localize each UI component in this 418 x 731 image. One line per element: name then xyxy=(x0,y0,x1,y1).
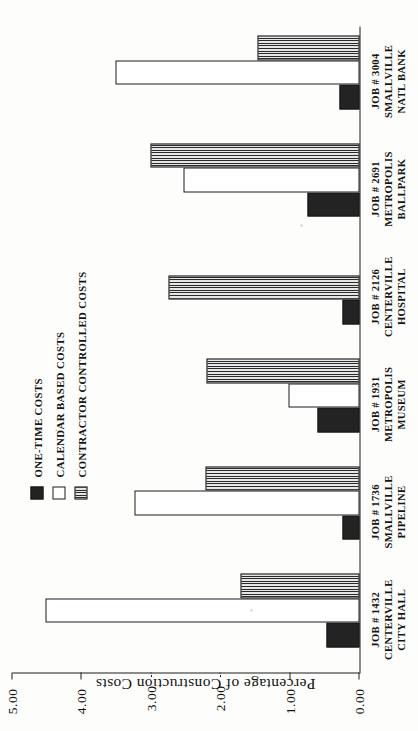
bar-group xyxy=(12,143,359,217)
category-axis-line xyxy=(359,26,360,673)
bar xyxy=(206,358,359,383)
legend-swatch-icon xyxy=(30,486,43,499)
bar xyxy=(183,167,359,192)
bar xyxy=(307,192,359,217)
bar xyxy=(240,573,359,598)
value-axis-tick: 4.00 xyxy=(80,672,81,679)
category-label-line: METROPOLIS xyxy=(381,135,394,243)
bar-chart-figure: Percentage of Construction Costs 0.001.0… xyxy=(0,0,418,731)
value-axis-tick: 5.00 xyxy=(11,672,12,679)
category-label-line: JOB # 2126 xyxy=(368,242,381,350)
category-label-line: PIPELINE xyxy=(394,458,407,566)
bar xyxy=(342,515,359,540)
legend-label: CALENDAR BASED COSTS xyxy=(53,331,65,477)
category-label-line: METROPOLIS xyxy=(381,350,394,458)
category-label-line: JOB # 1432 xyxy=(368,565,381,673)
scan-speckle xyxy=(55,429,57,431)
category-label-line: BALLPARK xyxy=(394,135,407,243)
category-label-line: JOB # 1736 xyxy=(368,458,381,566)
category-label-line: JOB # 1931 xyxy=(368,350,381,458)
scan-speckle xyxy=(250,609,252,611)
category-label-line: JOB # 2691 xyxy=(368,135,381,243)
chart-page: Percentage of Construction Costs 0.001.0… xyxy=(0,0,418,731)
bar xyxy=(205,466,359,491)
bar xyxy=(317,407,359,432)
category-label: JOB # 2126CENTERVILLEHOSPITAL xyxy=(368,242,407,350)
category-label-line: MUSEUM xyxy=(394,350,407,458)
value-axis-tick-label: 5.00 xyxy=(4,688,20,714)
rotated-figure-wrapper: Percentage of Construction Costs 0.001.0… xyxy=(0,0,418,731)
bar xyxy=(339,84,359,109)
bar-group xyxy=(12,35,359,109)
value-axis-tick: 3.00 xyxy=(150,672,151,676)
bar xyxy=(342,299,359,324)
scan-speckle xyxy=(300,224,302,226)
value-axis-tick: 1.00 xyxy=(289,672,290,679)
legend-swatch-icon xyxy=(74,486,87,499)
bar xyxy=(257,35,359,60)
category-label: JOB # 1432CENTERVILLECITY HALL xyxy=(368,565,407,673)
category-label: JOB # 1931METROPOLISMUSEUM xyxy=(368,350,407,458)
bar xyxy=(134,490,359,515)
category-label-line: JOB # 3004 xyxy=(368,27,381,135)
legend-item: CONTRACTOR CONTROLLED COSTS xyxy=(74,271,87,499)
category-label-line: NATL BANK xyxy=(394,27,407,135)
bar xyxy=(45,598,359,623)
bar xyxy=(150,143,359,168)
category-label: JOB # 3004SMALLVILLENATL BANK xyxy=(368,27,407,135)
value-axis-tick: 2.00 xyxy=(219,672,220,676)
category-label-line: CITY HALL xyxy=(394,565,407,673)
value-axis-tick-label: 0.00 xyxy=(351,688,367,714)
bar xyxy=(115,60,359,85)
category-label-line: CENTERVILLE xyxy=(381,242,394,350)
category-label-line: SMALLVILLE xyxy=(381,458,394,566)
category-label: JOB # 2691METROPOLISBALLPARK xyxy=(368,135,407,243)
value-axis-tick-label: 3.00 xyxy=(143,685,159,711)
value-axis-tick-label: 2.00 xyxy=(212,685,228,711)
category-label-line: CENTERVILLE xyxy=(381,565,394,673)
legend-item: CALENDAR BASED COSTS xyxy=(52,271,65,499)
category-label: JOB # 1736SMALLVILLEPIPELINE xyxy=(368,458,407,566)
legend-swatch-icon xyxy=(52,486,65,499)
bar-group xyxy=(12,573,359,647)
legend-label: ONE-TIME COSTS xyxy=(31,378,43,478)
bar xyxy=(168,275,359,300)
value-axis-tick-label: 4.00 xyxy=(73,688,89,714)
chart-legend: ONE-TIME COSTSCALENDAR BASED COSTSCONTRA… xyxy=(30,271,96,499)
value-axis-tick-label: 1.00 xyxy=(282,688,298,714)
legend-item: ONE-TIME COSTS xyxy=(30,271,43,499)
category-label-line: SMALLVILLE xyxy=(381,27,394,135)
bar xyxy=(288,383,359,408)
bar xyxy=(326,622,359,647)
legend-label: CONTRACTOR CONTROLLED COSTS xyxy=(75,271,87,477)
category-label-line: HOSPITAL xyxy=(394,242,407,350)
